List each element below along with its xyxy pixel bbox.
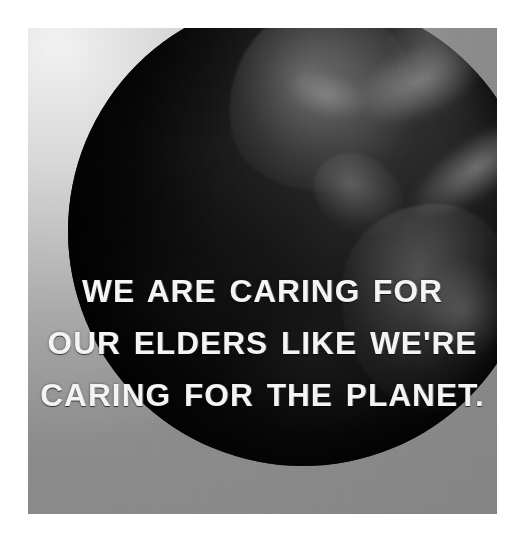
caption-line-1: WE ARE CARING FOR	[31, 266, 493, 318]
caption-block: WE ARE CARING FOR OUR ELDERS LIKE WE'RE …	[28, 266, 497, 422]
quote-image-poster: WE ARE CARING FOR OUR ELDERS LIKE WE'RE …	[0, 0, 522, 541]
caption-line-3: CARING FOR THE PLANET.	[31, 370, 493, 422]
photo-panel: WE ARE CARING FOR OUR ELDERS LIKE WE'RE …	[28, 28, 497, 514]
caption-line-2: OUR ELDERS LIKE WE'RE	[31, 318, 493, 370]
